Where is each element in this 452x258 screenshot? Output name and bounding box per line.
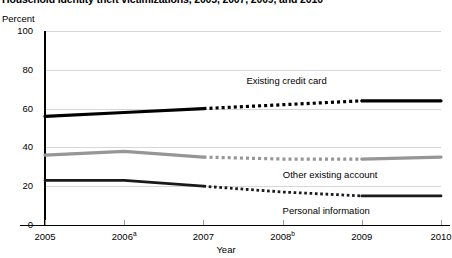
series-line-2-dotted bbox=[203, 157, 361, 159]
x-axis-tick-label: 2008b bbox=[270, 231, 295, 243]
x-axis-tick-label: 2010 bbox=[430, 231, 451, 243]
series-line-3-dotted bbox=[203, 186, 361, 196]
x-axis-tick-label: 2005 bbox=[34, 231, 55, 243]
series-label-3: Personal information bbox=[283, 205, 370, 216]
series-label-1: Existing credit card bbox=[246, 75, 326, 86]
series-line-2-solid bbox=[362, 157, 441, 159]
x-axis-tick-mark bbox=[45, 220, 46, 225]
x-axis-tick-label: 2009 bbox=[351, 231, 372, 243]
chart-figure: Household identity theft victimizations,… bbox=[0, 0, 452, 258]
series-lines bbox=[0, 0, 452, 258]
x-axis-tick-mark bbox=[441, 220, 442, 225]
series-line-1-solid bbox=[45, 109, 203, 117]
x-axis-title: Year bbox=[0, 244, 452, 255]
series-label-2: Other existing account bbox=[283, 169, 378, 180]
series-line-2-solid bbox=[45, 151, 203, 157]
x-axis-tick-label: 2007 bbox=[193, 231, 214, 243]
x-axis-tick-mark bbox=[283, 220, 284, 225]
series-line-3-solid bbox=[45, 180, 203, 186]
x-axis-tick-mark bbox=[124, 220, 125, 225]
series-line-1-dotted bbox=[203, 101, 361, 109]
x-axis-tick-label: 2006a bbox=[112, 231, 137, 243]
x-axis-tick-mark bbox=[362, 220, 363, 225]
x-axis-tick-mark bbox=[203, 220, 204, 225]
